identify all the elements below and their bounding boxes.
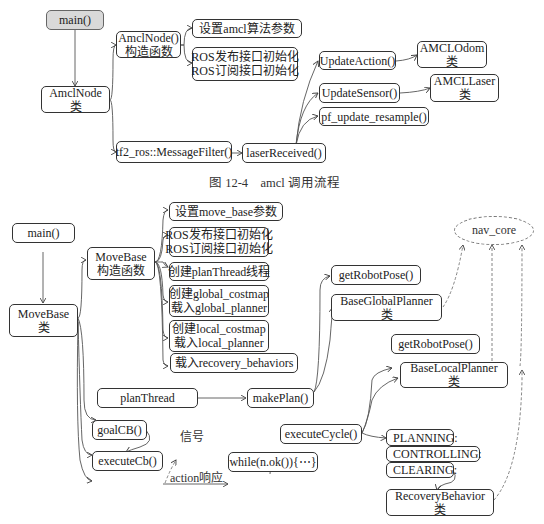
node-label: 设置amcl算法参数 bbox=[199, 22, 294, 36]
node-label: BaseLocalPlanner bbox=[410, 361, 497, 375]
node-label: 构造函数 bbox=[97, 264, 145, 278]
fig2-main-node: main() bbox=[12, 223, 75, 243]
node-label: 类 bbox=[70, 100, 82, 114]
fig1-set-params-node: 设置amcl算法参数 bbox=[192, 19, 302, 38]
node-label: pf_update_resample() bbox=[321, 110, 426, 124]
node-label: planThread bbox=[120, 391, 175, 405]
node-label: AMCLOdom bbox=[420, 41, 485, 55]
node-label: 载入global_planner bbox=[171, 301, 267, 315]
fig1-update-action-node: UpdateAction() bbox=[319, 51, 396, 70]
node-label: 类 bbox=[448, 375, 460, 389]
node-label: AmclNode bbox=[49, 86, 102, 100]
fig2-controlling-state-node: CONTROLLING: bbox=[386, 446, 480, 462]
fig1-pf-update-resample-node: pf_update_resample() bbox=[319, 107, 429, 126]
node-label: executeCycle() bbox=[285, 427, 358, 441]
node-label: 构造函数 bbox=[125, 45, 173, 59]
node-label: AmclNode() bbox=[118, 31, 179, 45]
node-label: MoveBase bbox=[95, 250, 146, 264]
fig2-movebase-constructor-node: MoveBase 构造函数 bbox=[87, 247, 155, 280]
node-label: UpdateSensor() bbox=[322, 86, 397, 100]
node-label: AMCLLaser bbox=[434, 74, 495, 88]
node-label: UpdateAction() bbox=[320, 54, 395, 68]
node-label: 创建planThread线程 bbox=[168, 265, 271, 279]
node-label: 类 bbox=[434, 503, 446, 517]
node-label: MoveBase bbox=[18, 307, 69, 321]
fig1-main-node: main() bbox=[46, 10, 104, 30]
fig1-message-filter-node: tf2_ros::MessageFilter() bbox=[116, 141, 232, 163]
fig2-clearing-state-node: CLEARING: bbox=[386, 462, 454, 478]
node-label: 载入local_planner bbox=[174, 336, 263, 350]
node-label: 创建global_costmap bbox=[169, 287, 269, 301]
node-label: RecoveryBehavior bbox=[395, 489, 485, 503]
node-label: 载入recovery_behaviors bbox=[175, 356, 294, 370]
node-label: main() bbox=[28, 226, 60, 240]
fig2-executecycle-node: executeCycle() bbox=[280, 424, 362, 444]
fig2-get-robot-pose-2-node: getRobotPose() bbox=[391, 334, 480, 354]
fig2-movebase-class-node: MoveBase 类 bbox=[9, 304, 78, 337]
fig2-base-global-planner-node: BaseGlobalPlanner 类 bbox=[331, 294, 442, 321]
node-label: laserReceived() bbox=[246, 146, 321, 160]
node-label: 类 bbox=[381, 308, 393, 322]
node-label: ROS订阅接口初始化 bbox=[165, 242, 272, 256]
fig2-create-planthread-node: 创建planThread线程 bbox=[169, 262, 269, 281]
fig2-while-loop-node: while(n.ok()){⋯} bbox=[228, 452, 318, 472]
node-label: makePlan() bbox=[253, 391, 308, 405]
fig2-base-local-planner-node: BaseLocalPlanner 类 bbox=[400, 362, 508, 388]
fig2-planthread-node: planThread bbox=[97, 388, 198, 408]
fig2-signal-label: 信号 bbox=[180, 427, 204, 445]
node-label: ROS订阅接口初始化 bbox=[191, 64, 298, 78]
node-label: 创建local_costmap bbox=[172, 322, 265, 336]
fig1-amcl-laser-node: AMCLLaser 类 bbox=[430, 74, 499, 102]
fig2-goalcb-node: goalCB() bbox=[92, 420, 147, 440]
node-label: executeCb() bbox=[98, 454, 157, 468]
fig2-local-costmap-node: 创建local_costmap 载入local_planner bbox=[169, 320, 269, 352]
node-label: tf2_ros::MessageFilter() bbox=[116, 145, 233, 159]
node-label: while(n.ok()){⋯} bbox=[229, 455, 316, 469]
fig1-caption: 图 12-4 amcl 调用流程 bbox=[209, 172, 340, 191]
fig2-makeplan-node: makePlan() bbox=[247, 388, 314, 408]
node-label: nav_core bbox=[472, 223, 516, 238]
fig2-get-robot-pose-1-node: getRobotPose() bbox=[331, 265, 421, 285]
fig2-set-params-node: 设置move_base参数 bbox=[169, 202, 283, 221]
fig2-planning-state-node: PLANNING: bbox=[386, 429, 454, 446]
fig1-ros-init-node: ROS发布接口初始化 ROS订阅接口初始化 bbox=[192, 47, 298, 81]
node-label: 设置move_base参数 bbox=[175, 205, 277, 219]
node-label: main() bbox=[59, 13, 91, 27]
fig2-executecb-node: executeCb() bbox=[92, 451, 163, 471]
fig2-action-response-label: action响应 bbox=[170, 468, 223, 486]
node-label: 类 bbox=[446, 55, 458, 69]
node-label: getRobotPose() bbox=[398, 337, 473, 351]
node-label: 类 bbox=[459, 88, 471, 102]
node-label: getRobotPose() bbox=[339, 268, 414, 282]
node-label: ROS发布接口初始化 bbox=[191, 50, 298, 64]
node-label: 类 bbox=[38, 321, 50, 335]
node-label: ROS发布接口初始化 bbox=[165, 228, 272, 242]
fig1-amclnode-constructor-node: AmclNode() 构造函数 bbox=[116, 31, 181, 58]
fig2-recovery-behavior-node: RecoveryBehavior 类 bbox=[386, 489, 494, 516]
node-label: CONTROLLING: bbox=[393, 447, 482, 461]
fig2-global-costmap-node: 创建global_costmap 载入global_planner bbox=[169, 285, 269, 317]
fig2-recovery-behaviors-node: 载入recovery_behaviors bbox=[170, 353, 298, 373]
node-label: PLANNING: bbox=[393, 431, 458, 445]
fig1-amcl-odom-node: AMCLOdom 类 bbox=[417, 41, 487, 68]
node-label: goalCB() bbox=[97, 423, 142, 437]
node-label: BaseGlobalPlanner bbox=[340, 294, 433, 308]
fig2-ros-init-node: ROS发布接口初始化 ROS订阅接口初始化 bbox=[169, 227, 269, 257]
node-label: CLEARING: bbox=[393, 463, 457, 477]
fig1-update-sensor-node: UpdateSensor() bbox=[319, 83, 400, 103]
fig1-laser-received-node: laserReceived() bbox=[242, 143, 326, 163]
fig1-amclnode-class-node: AmclNode 类 bbox=[41, 86, 110, 113]
fig2-nav-core-ellipse: nav_core bbox=[454, 216, 534, 245]
